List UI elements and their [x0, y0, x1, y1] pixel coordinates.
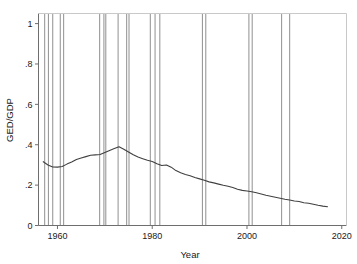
line-chart: 0.2.4.6.811960198020002020 Year GED/GDP: [0, 0, 357, 264]
y-axis-title: GED/GDP: [4, 98, 15, 142]
axis-ticks: [35, 24, 342, 229]
series-line-0: [43, 147, 327, 207]
y-tick-label-3: .6: [25, 100, 33, 110]
y-tick-label-2: .4: [25, 140, 33, 150]
y-tick-label-4: .8: [25, 59, 33, 69]
x-tick-label-2: 2000: [237, 231, 257, 241]
y-tick-label-0: 0: [27, 221, 32, 231]
y-tick-label-1: .2: [25, 180, 33, 190]
data-series-line: [43, 147, 327, 207]
x-axis-title: Year: [180, 249, 199, 260]
axis-tick-labels: 0.2.4.6.811960198020002020: [25, 19, 352, 241]
chart-figure: 0.2.4.6.811960198020002020 Year GED/GDP: [0, 0, 357, 264]
vertical-reference-lines: [45, 14, 290, 226]
x-tick-label-0: 1960: [47, 231, 67, 241]
x-tick-label-1: 1980: [142, 231, 162, 241]
y-tick-label-5: 1: [27, 19, 32, 29]
x-tick-label-3: 2020: [332, 231, 352, 241]
axes-frame: [39, 14, 347, 226]
